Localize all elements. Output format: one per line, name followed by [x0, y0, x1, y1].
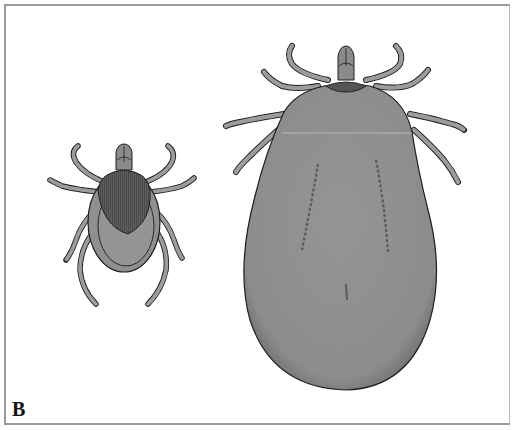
unfed-tick — [50, 144, 194, 304]
median-groove — [346, 284, 347, 300]
panel-label: B — [12, 398, 25, 421]
tick-illustration — [0, 0, 514, 430]
engorged-tick-body — [244, 84, 437, 390]
engorged-tick — [226, 46, 464, 390]
